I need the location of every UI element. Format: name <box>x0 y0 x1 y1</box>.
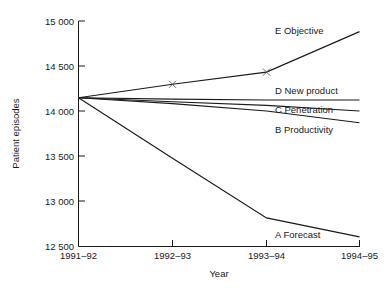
series-label-E: E Objective <box>275 25 324 36</box>
line-chart: 15 000 14 500 14 000 13 500 13 000 12 50… <box>0 0 390 295</box>
x-tick-marks <box>79 240 360 247</box>
y-tick-label-14000: 14 000 <box>45 106 74 117</box>
series-label-A: A Forecast <box>275 229 321 240</box>
x-tick-label-1991-92: 1991–92 <box>60 250 97 261</box>
y-tick-label-14500: 14 500 <box>45 61 74 72</box>
y-tick-label-15000: 15 000 <box>45 16 74 27</box>
series-label-B: B Productivity <box>275 124 333 135</box>
y-tick-labels: 15 000 14 500 14 000 13 500 13 000 12 50… <box>45 16 74 252</box>
y-tick-label-13000: 13 000 <box>45 196 74 207</box>
x-tick-label-1992-93: 1992–93 <box>154 250 191 261</box>
y-axis-title: Patient episodes <box>10 98 21 168</box>
x-tick-labels: 1991–92 1992–93 1993–94 1994–95 <box>60 250 378 261</box>
y-tick-marks <box>79 21 86 201</box>
x-tick-label-1994-95: 1994–95 <box>341 250 378 261</box>
series-line-A <box>79 98 360 237</box>
series-label-D: D New product <box>275 85 338 96</box>
series-label-C: C Penetration <box>275 104 333 115</box>
series-end-labels: E Objective D New product C Penetration … <box>275 25 338 240</box>
x-axis-title: Year <box>209 268 228 279</box>
chart-canvas: 15 000 14 500 14 000 13 500 13 000 12 50… <box>0 0 390 295</box>
x-tick-label-1993-94: 1993–94 <box>248 250 285 261</box>
y-tick-label-13500: 13 500 <box>45 151 74 162</box>
